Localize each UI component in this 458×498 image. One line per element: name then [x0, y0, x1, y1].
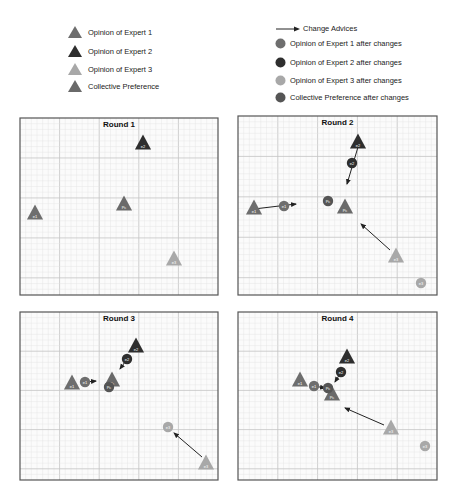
panel-round-2: Round 2e2e1Pce3e2e1Pce3: [238, 116, 437, 295]
svg-text:e1: e1: [252, 209, 257, 214]
svg-text:e2: e2: [356, 143, 361, 148]
plot-background: [238, 116, 437, 295]
svg-text:e3: e3: [172, 260, 177, 265]
opinion-after-circle-e2: e2: [122, 354, 132, 364]
svg-text:Pc: Pc: [343, 208, 348, 213]
panel-title: Round 1: [103, 120, 136, 129]
rounds-diagram: Round 1e2Pce1e3Round 2e2e1Pce3e2e1Pce3Ro…: [0, 0, 458, 498]
svg-text:e3: e3: [204, 464, 209, 469]
opinion-after-circle-e2: e2: [347, 158, 357, 168]
svg-text:e1: e1: [83, 380, 88, 385]
svg-text:e3: e3: [423, 444, 428, 449]
svg-text:Pc: Pc: [330, 395, 335, 400]
svg-text:e2: e2: [134, 347, 139, 352]
opinion-after-circle-e3: e3: [416, 278, 426, 288]
opinion-after-circle-e3: e3: [420, 441, 430, 451]
opinion-after-circle-e1: e1: [309, 381, 319, 391]
svg-text:e2: e2: [339, 370, 344, 375]
svg-text:e3: e3: [166, 425, 171, 430]
panel-title: Round 4: [322, 314, 355, 323]
panel-round-4: Round 4e2e1Pce3e2e1Pce3: [238, 312, 437, 480]
svg-text:e1: e1: [70, 384, 75, 389]
svg-text:e2: e2: [125, 357, 130, 362]
svg-text:Pc: Pc: [326, 386, 331, 391]
opinion-after-circle-e2: e2: [336, 367, 346, 377]
svg-text:e1: e1: [298, 381, 303, 386]
svg-text:e1: e1: [282, 204, 287, 209]
opinion-after-circle-e1: e1: [80, 377, 90, 387]
panel-round-3: Round 3e2e1Pce3e2e1Pce3: [20, 312, 218, 480]
svg-text:e2: e2: [350, 161, 355, 166]
svg-text:Pc: Pc: [107, 385, 112, 390]
panel-title: Round 2: [322, 118, 355, 127]
opinion-after-circle-e3: e3: [163, 422, 173, 432]
opinion-after-circle-pc: Pc: [323, 383, 333, 393]
svg-text:Pc: Pc: [122, 205, 127, 210]
panel-round-1: Round 1e2Pce1e3: [20, 118, 218, 295]
opinion-after-circle-pc: Pc: [323, 196, 333, 206]
svg-text:e2: e2: [345, 358, 350, 363]
svg-text:e3: e3: [419, 281, 424, 286]
svg-text:e1: e1: [33, 214, 38, 219]
svg-text:Pc: Pc: [326, 199, 331, 204]
svg-text:e1: e1: [312, 384, 317, 389]
svg-text:e3: e3: [389, 429, 394, 434]
svg-text:e2: e2: [141, 144, 146, 149]
svg-text:e3: e3: [394, 257, 399, 262]
panel-title: Round 3: [103, 314, 136, 323]
opinion-after-circle-pc: Pc: [104, 382, 114, 392]
opinion-after-circle-e1: e1: [279, 201, 289, 211]
